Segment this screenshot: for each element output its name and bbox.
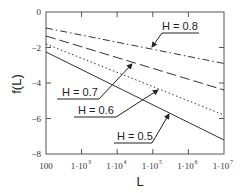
y-tick-0: 0 [37,7,42,17]
x-tick-4: 1·10 [177,161,194,171]
x-tick-1: 1·10 [71,161,88,171]
annotation-h08: H = 0.8 [152,20,199,47]
x-tick-0: 100 [39,161,53,171]
x-tick-3: 1·10 [142,161,159,171]
x-tick-labels: 100 1·10 3 1·10 4 1·10 5 1·10 6 1·10 7 [39,159,233,171]
x-tick-5: 1·10 [213,161,230,171]
y-tick-3: −6 [31,114,41,124]
y-tick-4: −8 [31,149,41,159]
x-tick-3-exp: 5 [159,159,162,165]
x-tick-4-exp: 6 [195,159,198,165]
x-tick-2-exp: 4 [124,159,127,165]
y-tick-labels: 0 −2 −4 −6 −8 [31,7,41,159]
series-lines [46,28,224,140]
chart: 0 −2 −4 −6 −8 100 1·10 3 1·10 4 1·10 5 1… [0,0,246,193]
x-tick-5-exp: 7 [230,159,233,165]
x-axis-label: L [136,174,143,189]
y-tick-1: −2 [31,43,41,53]
annotation-h07-text: H = 0.7 [62,86,98,98]
annotation-h07: H = 0.7 [57,64,132,99]
y-tick-2: −4 [31,78,41,88]
annotation-h05-text: H = 0.5 [117,130,153,142]
x-tick-2: 1·10 [106,161,123,171]
annotation-h05: H = 0.5 [114,114,169,143]
y-ticks [46,48,224,119]
x-tick-1-exp: 3 [88,159,91,165]
annotation-h08-text: H = 0.8 [162,20,198,32]
y-axis-label: f(L) [9,74,24,94]
line-h07 [46,36,224,90]
annotation-h06-text: H = 0.6 [78,104,114,116]
